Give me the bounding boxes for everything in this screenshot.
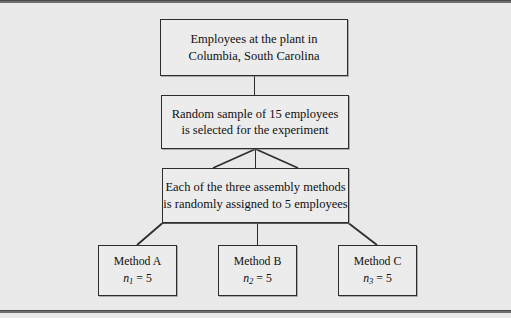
- node-treatment-method-a: Method A n1 = 5: [98, 245, 177, 296]
- connector-sample-to-assignment-right: [256, 149, 299, 168]
- top-frame-rule: [0, 0, 511, 3]
- node-treatment-method-a-sample-size: n1 = 5: [123, 271, 152, 287]
- connector-sample-to-assignment-left: [213, 149, 256, 168]
- node-treatment-method-c-label: Method C: [354, 254, 402, 270]
- node-random-assignment-line-1: Each of the three assembly methods: [165, 179, 345, 196]
- node-treatment-method-a-label: Method A: [114, 254, 162, 270]
- node-treatment-method-b-sample-size: n2 = 5: [243, 271, 272, 287]
- node-treatment-method-c: Method C n3 = 5: [338, 245, 417, 296]
- sample-size-value-b: 5: [266, 271, 272, 285]
- node-random-assignment: Each of the three assembly methods is ra…: [162, 168, 349, 223]
- node-treatment-method-b-label: Method B: [234, 254, 282, 270]
- node-treatment-method-c-sample-size: n3 = 5: [363, 271, 392, 287]
- node-population: Employees at the plant in Columbia, Sout…: [160, 19, 348, 76]
- sample-size-subscript-c: 3: [369, 276, 373, 286]
- connector-assignment-to-method-a: [137, 224, 162, 246]
- node-random-sample-line-1: Random sample of 15 employees: [172, 106, 339, 123]
- node-population-line-1: Employees at the plant in: [190, 31, 317, 48]
- node-population-line-2: Columbia, South Carolina: [189, 48, 320, 65]
- connector-assignment-to-method-c: [349, 224, 377, 246]
- sample-size-subscript-a: 1: [129, 276, 133, 286]
- sample-size-subscript-b: 2: [249, 276, 253, 286]
- sample-size-value-a: 5: [146, 271, 152, 285]
- sample-size-operator-c: =: [376, 271, 383, 285]
- sample-size-operator-a: =: [136, 271, 143, 285]
- bottom-frame-rule: [0, 310, 511, 313]
- sample-size-operator-b: =: [256, 271, 263, 285]
- sample-size-value-c: 5: [386, 271, 392, 285]
- experimental-design-diagram: Employees at the plant in Columbia, Sout…: [0, 0, 511, 318]
- node-treatment-method-b: Method B n2 = 5: [218, 245, 297, 296]
- node-random-sample-line-2: is selected for the experiment: [181, 122, 328, 139]
- node-random-sample: Random sample of 15 employees is selecte…: [161, 95, 349, 149]
- node-random-assignment-line-2: is randomly assigned to 5 employees: [163, 196, 347, 213]
